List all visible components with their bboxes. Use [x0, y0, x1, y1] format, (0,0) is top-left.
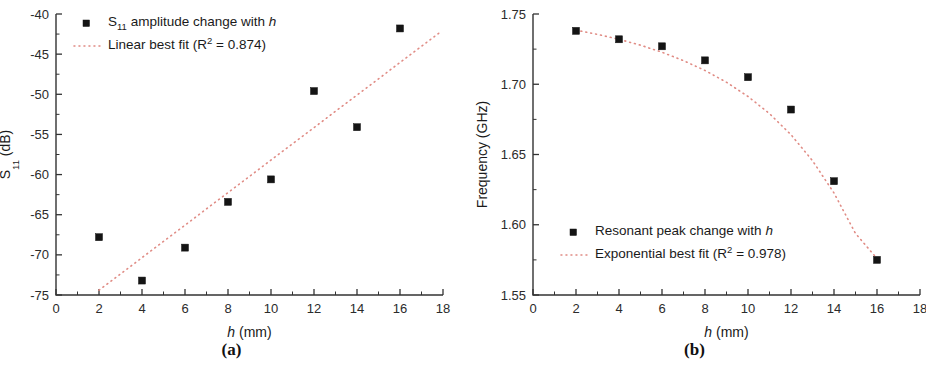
figure-root: 024681012141618-75-70-65-60-55-50-45-40h…: [0, 0, 926, 373]
panel-b-caption: (b): [463, 340, 926, 360]
data-point: [745, 74, 752, 81]
y-tick-label: 1.65: [501, 147, 526, 162]
legend-label: Exponential best fit (R2 = 0.978): [595, 244, 786, 261]
data-point: [702, 57, 709, 64]
x-tick-label: 0: [52, 301, 59, 316]
y-tick-label: -45: [30, 47, 49, 62]
legend-square-marker-icon: [570, 229, 577, 236]
data-point: [831, 178, 838, 185]
x-tick-label: 6: [658, 301, 665, 316]
y-tick-label: 1.60: [501, 217, 526, 232]
y-tick-label: -50: [30, 87, 49, 102]
x-tick-label: 2: [95, 301, 102, 316]
panel-b: 0246810121416181.551.601.651.701.75h (mm…: [463, 0, 926, 373]
panel-a: 024681012141618-75-70-65-60-55-50-45-40h…: [0, 0, 463, 373]
data-point: [311, 88, 318, 95]
y-tick-label: -75: [30, 288, 49, 303]
legend-label: S11 amplitude change with h: [108, 14, 276, 32]
x-tick-label: 0: [529, 301, 536, 316]
data-point: [616, 36, 623, 43]
legend-item: Exponential best fit (R2 = 0.978): [561, 244, 786, 261]
data-point: [788, 106, 795, 113]
x-axis-ticks: 024681012141618: [52, 289, 450, 316]
y-axis-title: Frequency (GHz): [474, 101, 490, 208]
x-tick-label: 18: [913, 301, 926, 316]
axes: [56, 14, 443, 295]
legend-item: S11 amplitude change with h: [83, 14, 276, 32]
y-axis-title: S11 (dB): [0, 130, 21, 180]
x-tick-label: 14: [827, 301, 841, 316]
x-tick-label: 4: [138, 301, 145, 316]
panel-b-plot: 0246810121416181.551.601.651.701.75h (mm…: [463, 0, 926, 373]
y-tick-label: -65: [30, 207, 49, 222]
data-point: [874, 256, 881, 263]
x-axis-title: h (mm): [704, 324, 748, 340]
legend-item: Linear best fit (R2 = 0.874): [74, 35, 266, 52]
panel-a-caption: (a): [0, 340, 463, 360]
best-fit-line: [99, 33, 439, 290]
x-tick-label: 12: [784, 301, 798, 316]
x-tick-label: 14: [350, 301, 364, 316]
data-point: [96, 234, 103, 241]
data-point: [573, 27, 580, 34]
x-tick-label: 10: [264, 301, 278, 316]
data-point: [139, 277, 146, 284]
x-axis-title: h (mm): [227, 324, 271, 340]
legend: S11 amplitude change with hLinear best f…: [74, 14, 276, 52]
data-point: [268, 176, 275, 183]
x-axis-ticks: 024681012141618: [529, 289, 926, 316]
y-tick-label: 1.75: [501, 7, 526, 22]
x-tick-label: 6: [181, 301, 188, 316]
y-tick-label: 1.70: [501, 77, 526, 92]
legend: Resonant peak change with hExponential b…: [561, 223, 786, 261]
x-tick-label: 8: [701, 301, 708, 316]
y-tick-label: -70: [30, 247, 49, 262]
data-point: [659, 43, 666, 50]
data-point: [182, 244, 189, 251]
y-tick-label: 1.55: [501, 288, 526, 303]
data-point: [354, 124, 361, 131]
x-tick-label: 2: [572, 301, 579, 316]
y-tick-label: -60: [30, 167, 49, 182]
legend-item: Resonant peak change with h: [570, 223, 773, 238]
x-tick-label: 16: [870, 301, 884, 316]
x-tick-label: 4: [615, 301, 622, 316]
y-tick-label: -55: [30, 127, 49, 142]
y-axis-ticks: -75-70-65-60-55-50-45-40: [30, 7, 62, 303]
legend-label: Resonant peak change with h: [595, 223, 773, 238]
data-markers: [96, 25, 404, 284]
y-tick-label: -40: [30, 7, 49, 22]
panel-a-plot: 024681012141618-75-70-65-60-55-50-45-40h…: [0, 0, 463, 373]
x-tick-label: 18: [436, 301, 450, 316]
x-tick-label: 16: [393, 301, 407, 316]
x-tick-label: 10: [741, 301, 755, 316]
legend-square-marker-icon: [83, 20, 90, 27]
legend-label: Linear best fit (R2 = 0.874): [108, 35, 266, 52]
data-point: [225, 198, 232, 205]
x-tick-label: 12: [307, 301, 321, 316]
data-point: [397, 25, 404, 32]
x-tick-label: 8: [224, 301, 231, 316]
